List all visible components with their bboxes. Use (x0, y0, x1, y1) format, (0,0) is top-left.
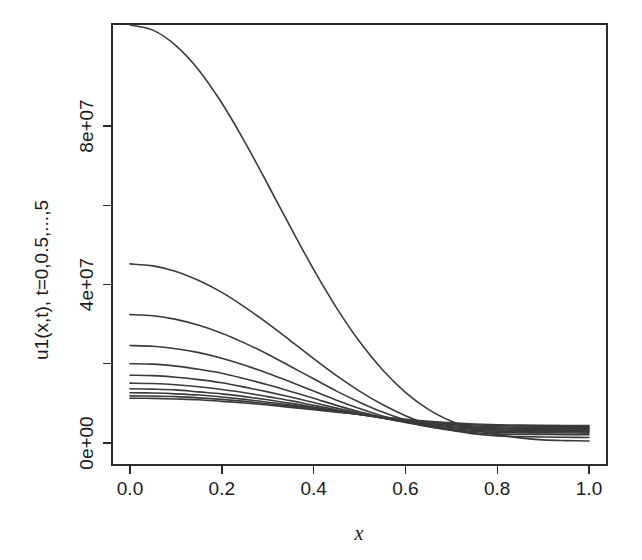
line-chart-plot: 0e+004e+078e+07 0.00.20.40.60.81.0 u1(x,… (0, 0, 642, 560)
chart-figure: 0e+004e+078e+07 0.00.20.40.60.81.0 u1(x,… (0, 0, 642, 560)
x-tick-label: 0.2 (209, 478, 235, 499)
x-tick-label: 0.8 (484, 478, 510, 499)
y-tick-label: 8e+07 (76, 99, 97, 152)
x-tick-label: 0.6 (392, 478, 418, 499)
x-tick-label: 0.4 (300, 478, 327, 499)
y-axis-title: u1(x,t), t=0,0.5,...,5 (31, 200, 52, 360)
x-tick-label: 1.0 (576, 478, 602, 499)
x-tick-label: 0.0 (117, 478, 143, 499)
y-tick-label: 0e+00 (76, 416, 97, 469)
x-axis-title: x (354, 522, 364, 544)
y-tick-label: 4e+07 (76, 258, 97, 311)
